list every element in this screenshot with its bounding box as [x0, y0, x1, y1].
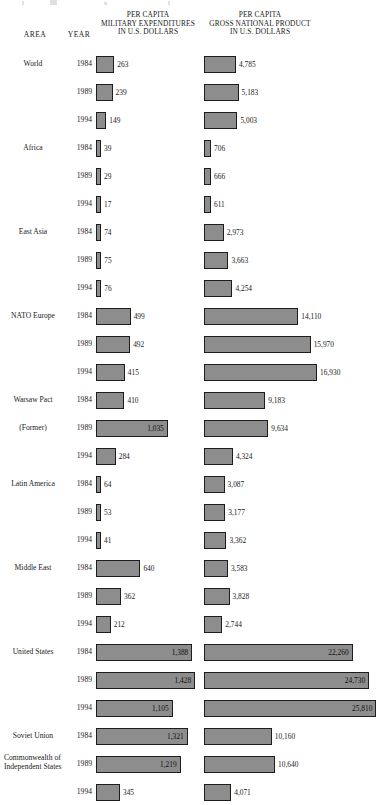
gnp-bar-group: 2,973 [204, 223, 244, 241]
bar-value-label: 2,973 [227, 228, 244, 237]
gnp-bar: 22,260 [204, 644, 353, 661]
gnp-bar-group: 25,810 [204, 699, 376, 717]
bar-value-label: 4,324 [236, 452, 253, 461]
row-year-label: 1994 [62, 367, 92, 376]
military-bar [96, 168, 101, 185]
row-year-label: 1989 [62, 255, 92, 264]
bar-value-label: 666 [214, 172, 225, 181]
table-row: 198949215,970 [0, 332, 384, 360]
bar-value-label: 3,828 [233, 592, 250, 601]
row-year-label: 1984 [62, 479, 92, 488]
bar-value-label: 9,183 [268, 396, 285, 405]
bar-value-label: 41 [104, 536, 111, 545]
table-row: Latin America1984643,087 [0, 472, 384, 500]
bar-value-label: 640 [143, 564, 154, 573]
military-bar [96, 532, 101, 549]
gnp-bar-group: 5,003 [204, 111, 257, 129]
bar-value-label: 24,730 [345, 676, 365, 685]
military-bar [96, 112, 106, 129]
gnp-bar-group: 3,177 [204, 503, 245, 521]
military-bar [96, 140, 101, 157]
bar-value-label: 64 [104, 480, 111, 489]
row-area-label: Commonwealth of Independent States [4, 753, 66, 771]
bar-value-label: 1,428 [174, 676, 191, 685]
gnp-bar [204, 84, 239, 101]
row-area-label: East Asia [2, 227, 64, 236]
gnp-bar-group: 10,160 [204, 727, 295, 745]
row-year-label: 1984 [62, 731, 92, 740]
bar-value-label: 5,183 [242, 88, 259, 97]
military-bar [96, 392, 124, 409]
bar-value-label: 1,321 [167, 732, 184, 741]
military-bar [96, 308, 131, 325]
row-year-label: 1994 [62, 283, 92, 292]
table-row: 19942844,324 [0, 444, 384, 472]
row-year-label: 1984 [62, 647, 92, 656]
bar-value-label: 492 [133, 340, 144, 349]
table-row: 19892395,183 [0, 80, 384, 108]
military-bar [96, 336, 130, 353]
table-row: 1994413,362 [0, 528, 384, 556]
military-bar [96, 616, 111, 633]
row-year-label: 1994 [62, 787, 92, 796]
military-bar-group: 74 [96, 223, 112, 241]
row-area-label: United States [2, 647, 64, 656]
bar-value-label: 15,970 [314, 340, 334, 349]
military-bar: 1,388 [96, 644, 192, 661]
military-bar [96, 280, 101, 297]
military-bar [96, 448, 116, 465]
table-row: 19893623,828 [0, 584, 384, 612]
row-year-label: 1994 [62, 199, 92, 208]
table-row: 198929666 [0, 164, 384, 192]
row-year-label: 1989 [62, 759, 92, 768]
table-row: 19941495,003 [0, 108, 384, 136]
military-bar-group: 1,388 [96, 643, 192, 661]
header-gross-national-product: PER CAPITA GROSS NATIONAL PRODUCT IN U.S… [200, 11, 320, 37]
gnp-bar: 24,730 [204, 672, 369, 689]
table-row: 19941,10525,810 [0, 696, 384, 724]
header-military-line-3: IN U.S. DOLLARS [92, 28, 204, 37]
table-row: NATO Europe198449914,110 [0, 304, 384, 332]
gnp-bar [204, 728, 272, 745]
gnp-bar [204, 476, 225, 493]
gnp-bar-group: 4,071 [204, 783, 251, 801]
header-military-expenditures: PER CAPITA MILITARY EXPENDITURES IN U.S.… [92, 11, 204, 37]
bar-value-label: 1,388 [172, 648, 189, 657]
table-row: (Former)19891,0359,634 [0, 416, 384, 444]
military-bar-group: 75 [96, 251, 112, 269]
military-bar: 1,035 [96, 420, 168, 437]
military-bar-group: 284 [96, 447, 130, 465]
military-bar-group: 499 [96, 307, 145, 325]
row-year-label: 1994 [62, 535, 92, 544]
bar-value-label: 3,362 [229, 536, 246, 545]
header-area: AREA [6, 31, 64, 40]
bar-value-label: 10,160 [275, 732, 295, 741]
bar-value-label: 706 [214, 144, 225, 153]
gnp-bar [204, 56, 236, 73]
header-gnp-line-3: IN U.S. DOLLARS [200, 28, 320, 37]
military-bar-group: 29 [96, 167, 111, 185]
gnp-bar [204, 196, 211, 213]
bar-value-label: 3,583 [231, 564, 248, 573]
gnp-bar-group: 14,110 [204, 307, 321, 325]
bar-value-label: 5,003 [240, 116, 257, 125]
row-year-label: 1984 [62, 311, 92, 320]
bar-value-label: 39 [104, 144, 111, 153]
military-bar-group: 492 [96, 335, 144, 353]
table-row: Warsaw Pact19844109,183 [0, 388, 384, 416]
military-bar [96, 560, 140, 577]
bar-value-label: 75 [104, 256, 111, 265]
table-row: United States19841,38822,260 [0, 640, 384, 668]
table-header: AREA YEAR PER CAPITA MILITARY EXPENDITUR… [0, 0, 384, 48]
bar-value-label: 16,930 [320, 368, 340, 377]
gnp-bar [204, 252, 228, 269]
military-bar [96, 784, 120, 801]
bar-value-label: 345 [123, 788, 134, 797]
gnp-bar [204, 308, 298, 325]
row-area-label: NATO Europe [2, 311, 64, 320]
military-bar [96, 476, 101, 493]
military-bar [96, 364, 125, 381]
bar-value-label: 1,035 [147, 424, 164, 433]
bar-value-label: 4,785 [239, 60, 256, 69]
gnp-bar [204, 616, 222, 633]
